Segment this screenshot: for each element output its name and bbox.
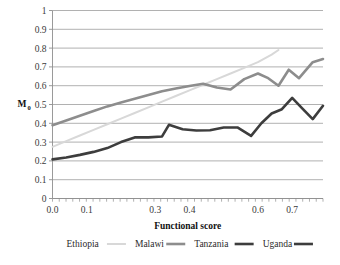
y-tick-label: 0.4 xyxy=(35,119,47,129)
y-tick-labels: 00.10.20.30.40.50.60.70.80.91 xyxy=(35,6,47,204)
legend-label-ethiopia: Ethiopia xyxy=(67,239,100,249)
y-tick-label: 1 xyxy=(42,6,47,16)
x-axis-title: Functional score xyxy=(154,221,221,231)
y-tick-label: 0 xyxy=(42,194,47,204)
x-tick-label: 0.6 xyxy=(252,205,264,215)
gridlines-group xyxy=(53,11,324,199)
legend-label-malawi: Malawi xyxy=(135,239,164,249)
x-tick-labels: 0.00.10.30.40.60.7 xyxy=(47,205,299,215)
x-tick-label: 0.4 xyxy=(184,205,196,215)
x-axis-group xyxy=(53,199,324,202)
x-tick-label: 0.7 xyxy=(286,205,298,215)
x-tick-label: 0.0 xyxy=(47,205,59,215)
y-axis-title: M xyxy=(18,99,27,109)
legend-label-tanzania: Tanzania xyxy=(194,239,229,249)
y-tick-label: 0.5 xyxy=(35,100,47,110)
y-tick-label: 0.2 xyxy=(35,156,47,166)
x-tick-label: 0.1 xyxy=(81,205,93,215)
chart-page: 00.10.20.30.40.50.60.70.80.91 0.00.10.30… xyxy=(0,0,340,265)
y-axis-group xyxy=(49,11,53,199)
y-tick-label: 0.1 xyxy=(35,175,47,185)
y-tick-label: 0.7 xyxy=(35,62,47,72)
legend-label-uganda: Uganda xyxy=(263,239,293,249)
chart-legend: EthiopiaMalawiTanzaniaUganda xyxy=(67,239,313,249)
series-line-uganda xyxy=(53,98,324,159)
chart-container: 00.10.20.30.40.50.60.70.80.91 0.00.10.30… xyxy=(0,0,340,265)
line-chart: 00.10.20.30.40.50.60.70.80.91 0.00.10.30… xyxy=(0,0,340,265)
y-tick-label: 0.8 xyxy=(35,44,47,54)
y-tick-label: 0.9 xyxy=(35,25,47,35)
y-tick-label: 0.6 xyxy=(35,81,47,91)
y-tick-label: 0.3 xyxy=(35,138,47,148)
x-tick-label: 0.3 xyxy=(149,205,161,215)
y-axis-title-subscript: 0 xyxy=(28,104,31,111)
